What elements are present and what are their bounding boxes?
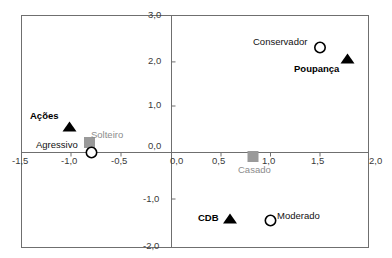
x-tick-label-2.0: 2,0: [369, 155, 382, 166]
x-tick-label-0.0: 0,0: [170, 155, 183, 166]
marker-circle-moderado: [265, 215, 275, 225]
plot-canvas: [0, 0, 392, 258]
marker-circle-agressivo: [86, 147, 96, 157]
x-tick-label--1.5: -1,5: [12, 155, 28, 166]
y-tick-label-2.0: 2,0: [148, 55, 161, 66]
x-tick-label-1.5: 1,5: [311, 155, 324, 166]
scatter-plot-figure: -1,5 -1,0 -0,5 0,0 0,5 1,0 1,5 2,0 3,0 2…: [0, 0, 392, 258]
point-label-poupanca: Poupança: [294, 63, 339, 74]
y-axis-ticks: [172, 16, 176, 248]
y-tick-label-0.0: 0,0: [148, 140, 161, 151]
marker-square-casado: [248, 151, 259, 162]
y-tick-label--1.0: -1,0: [143, 193, 159, 204]
marker-triangle-cdb: [223, 214, 237, 224]
point-label-casado: Casado: [238, 164, 271, 175]
marker-triangle-acoes: [63, 122, 77, 132]
y-tick-label-1.0: 1,0: [148, 99, 161, 110]
x-tick-label--1.0: -1,0: [61, 155, 77, 166]
point-label-solteiro: Solteiro: [91, 129, 123, 140]
y-tick-label-3.0: 3,0: [148, 9, 161, 20]
point-label-acoes: Ações: [30, 110, 59, 121]
point-label-cdb: CDB: [198, 212, 219, 223]
x-tick-label-0.5: 0,5: [212, 155, 225, 166]
x-tick-label--0.5: -0,5: [111, 155, 127, 166]
point-label-moderado: Moderado: [277, 210, 320, 221]
marker-circle-conservador: [315, 42, 325, 52]
y-tick-label--2.0: -2,0: [143, 240, 159, 251]
marker-triangle-poupanca: [341, 54, 355, 64]
point-label-agressivo: Agressivo: [36, 139, 78, 150]
point-label-conservador: Conservador: [253, 36, 307, 47]
